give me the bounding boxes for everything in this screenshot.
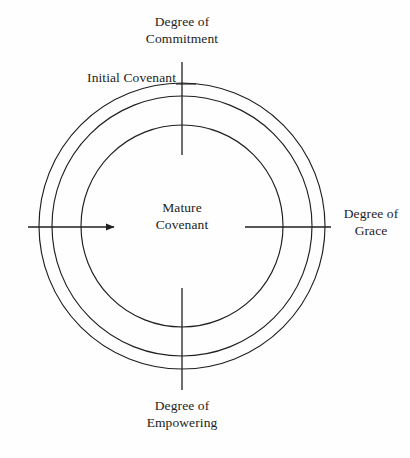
diagram-canvas: Degree of Commitment Degree of Empowerin… — [0, 0, 410, 458]
axis-label-grace: Degree of Grace — [333, 206, 409, 239]
annotation-mature-covenant: Mature Covenant — [137, 200, 227, 233]
annotation-initial-covenant: Initial Covenant — [61, 70, 176, 87]
axis-label-empowering: Degree of Empowering — [119, 398, 245, 431]
axis-label-commitment: Degree of Commitment — [119, 14, 245, 47]
